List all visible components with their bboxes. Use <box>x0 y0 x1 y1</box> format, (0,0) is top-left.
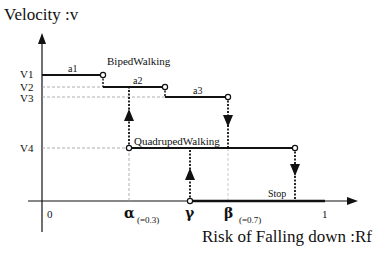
y-axis-arrow-icon <box>38 33 46 44</box>
x-tick-0: 0 <box>47 209 53 220</box>
x-axis-title: Risk of Falling down :Rf <box>202 228 372 245</box>
x-tick-1: 1 <box>322 209 328 220</box>
stop-label: Stop <box>268 189 286 199</box>
v4-label: V4 <box>20 143 33 154</box>
up-arrow-icon <box>124 109 134 121</box>
down-arrow-icon <box>290 164 300 176</box>
alpha-value-note: (=0.3) <box>137 216 159 225</box>
down-arrow-icon <box>223 115 233 127</box>
up-arrow-icon <box>185 168 195 180</box>
x-axis-arrow-icon <box>347 197 358 205</box>
segment-a1-label: a1 <box>68 64 77 74</box>
v3-label: V3 <box>20 93 33 104</box>
x-tick-alpha: α <box>124 206 135 220</box>
y-axis-title: Velocity :v <box>4 6 78 23</box>
beta-value-note: (=0.7) <box>239 216 261 225</box>
segment-a3-label: a3 <box>193 86 202 96</box>
quadruped-walking-label: QuadrupedWalking <box>134 136 220 147</box>
v1-label: V1 <box>20 69 33 80</box>
x-tick-gamma: γ <box>185 206 194 220</box>
velocity-risk-diagram <box>0 0 390 258</box>
x-tick-beta: β <box>224 206 233 220</box>
biped-walking-label: BipedWalking <box>107 56 170 67</box>
segment-a2-label: a2 <box>133 76 142 86</box>
